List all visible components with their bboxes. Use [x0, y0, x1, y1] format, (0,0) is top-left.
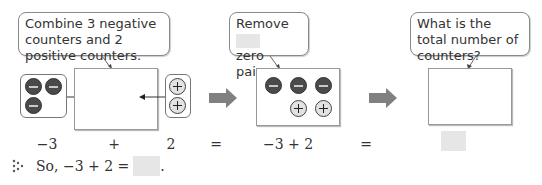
- negative-counter-icon: [25, 97, 42, 114]
- positive-counter-icon: [169, 78, 186, 95]
- result-blank[interactable]: [441, 131, 466, 151]
- positive-counter-icon: [290, 100, 307, 117]
- zero-pairs-blank[interactable]: [236, 34, 260, 48]
- conclusion-period: .: [160, 158, 164, 174]
- plus-sign: +: [104, 136, 124, 152]
- arrow-left-icon: [138, 92, 166, 102]
- conclusion-text: So, −3 + 2 =: [36, 158, 129, 174]
- zero-pairs-box: [256, 68, 340, 126]
- callout-combine-counters: Combine 3 negative counters and 2 positi…: [18, 12, 170, 56]
- callout-remove-prefix: Remove: [236, 16, 289, 31]
- conclusion-line: So, −3 + 2 = .: [12, 156, 165, 176]
- negative-counter-icon: [315, 77, 332, 94]
- positive-counter-icon: [169, 97, 186, 114]
- conclusion-answer-blank[interactable]: [133, 156, 160, 176]
- positive-counter-icon: [315, 100, 332, 117]
- equals-sign: =: [358, 136, 374, 152]
- equals-sign: =: [208, 136, 224, 152]
- term-two: 2: [163, 136, 179, 152]
- callout-total-counters: What is the total number of counters?: [410, 12, 530, 56]
- callout-remove-zero-pairs: Remove zero pairs.: [229, 12, 309, 56]
- negative-counter-icon: [290, 77, 307, 94]
- negative-counter-icon: [25, 78, 42, 95]
- negative-counter-icon: [265, 77, 282, 94]
- negative-counter-icon: [45, 78, 62, 95]
- next-step-arrow-icon: [209, 88, 239, 108]
- therefore-dots-icon: [12, 159, 24, 173]
- total-counters-box[interactable]: [428, 68, 512, 125]
- next-step-arrow-icon: [369, 88, 399, 108]
- positive-counters-tray: [165, 74, 191, 118]
- term-negative-three: −3: [32, 136, 62, 152]
- expression: −3 + 2: [258, 136, 318, 152]
- negative-counters-tray: [20, 74, 67, 118]
- callout-combine-text: Combine 3 negative counters and 2 positi…: [25, 16, 156, 63]
